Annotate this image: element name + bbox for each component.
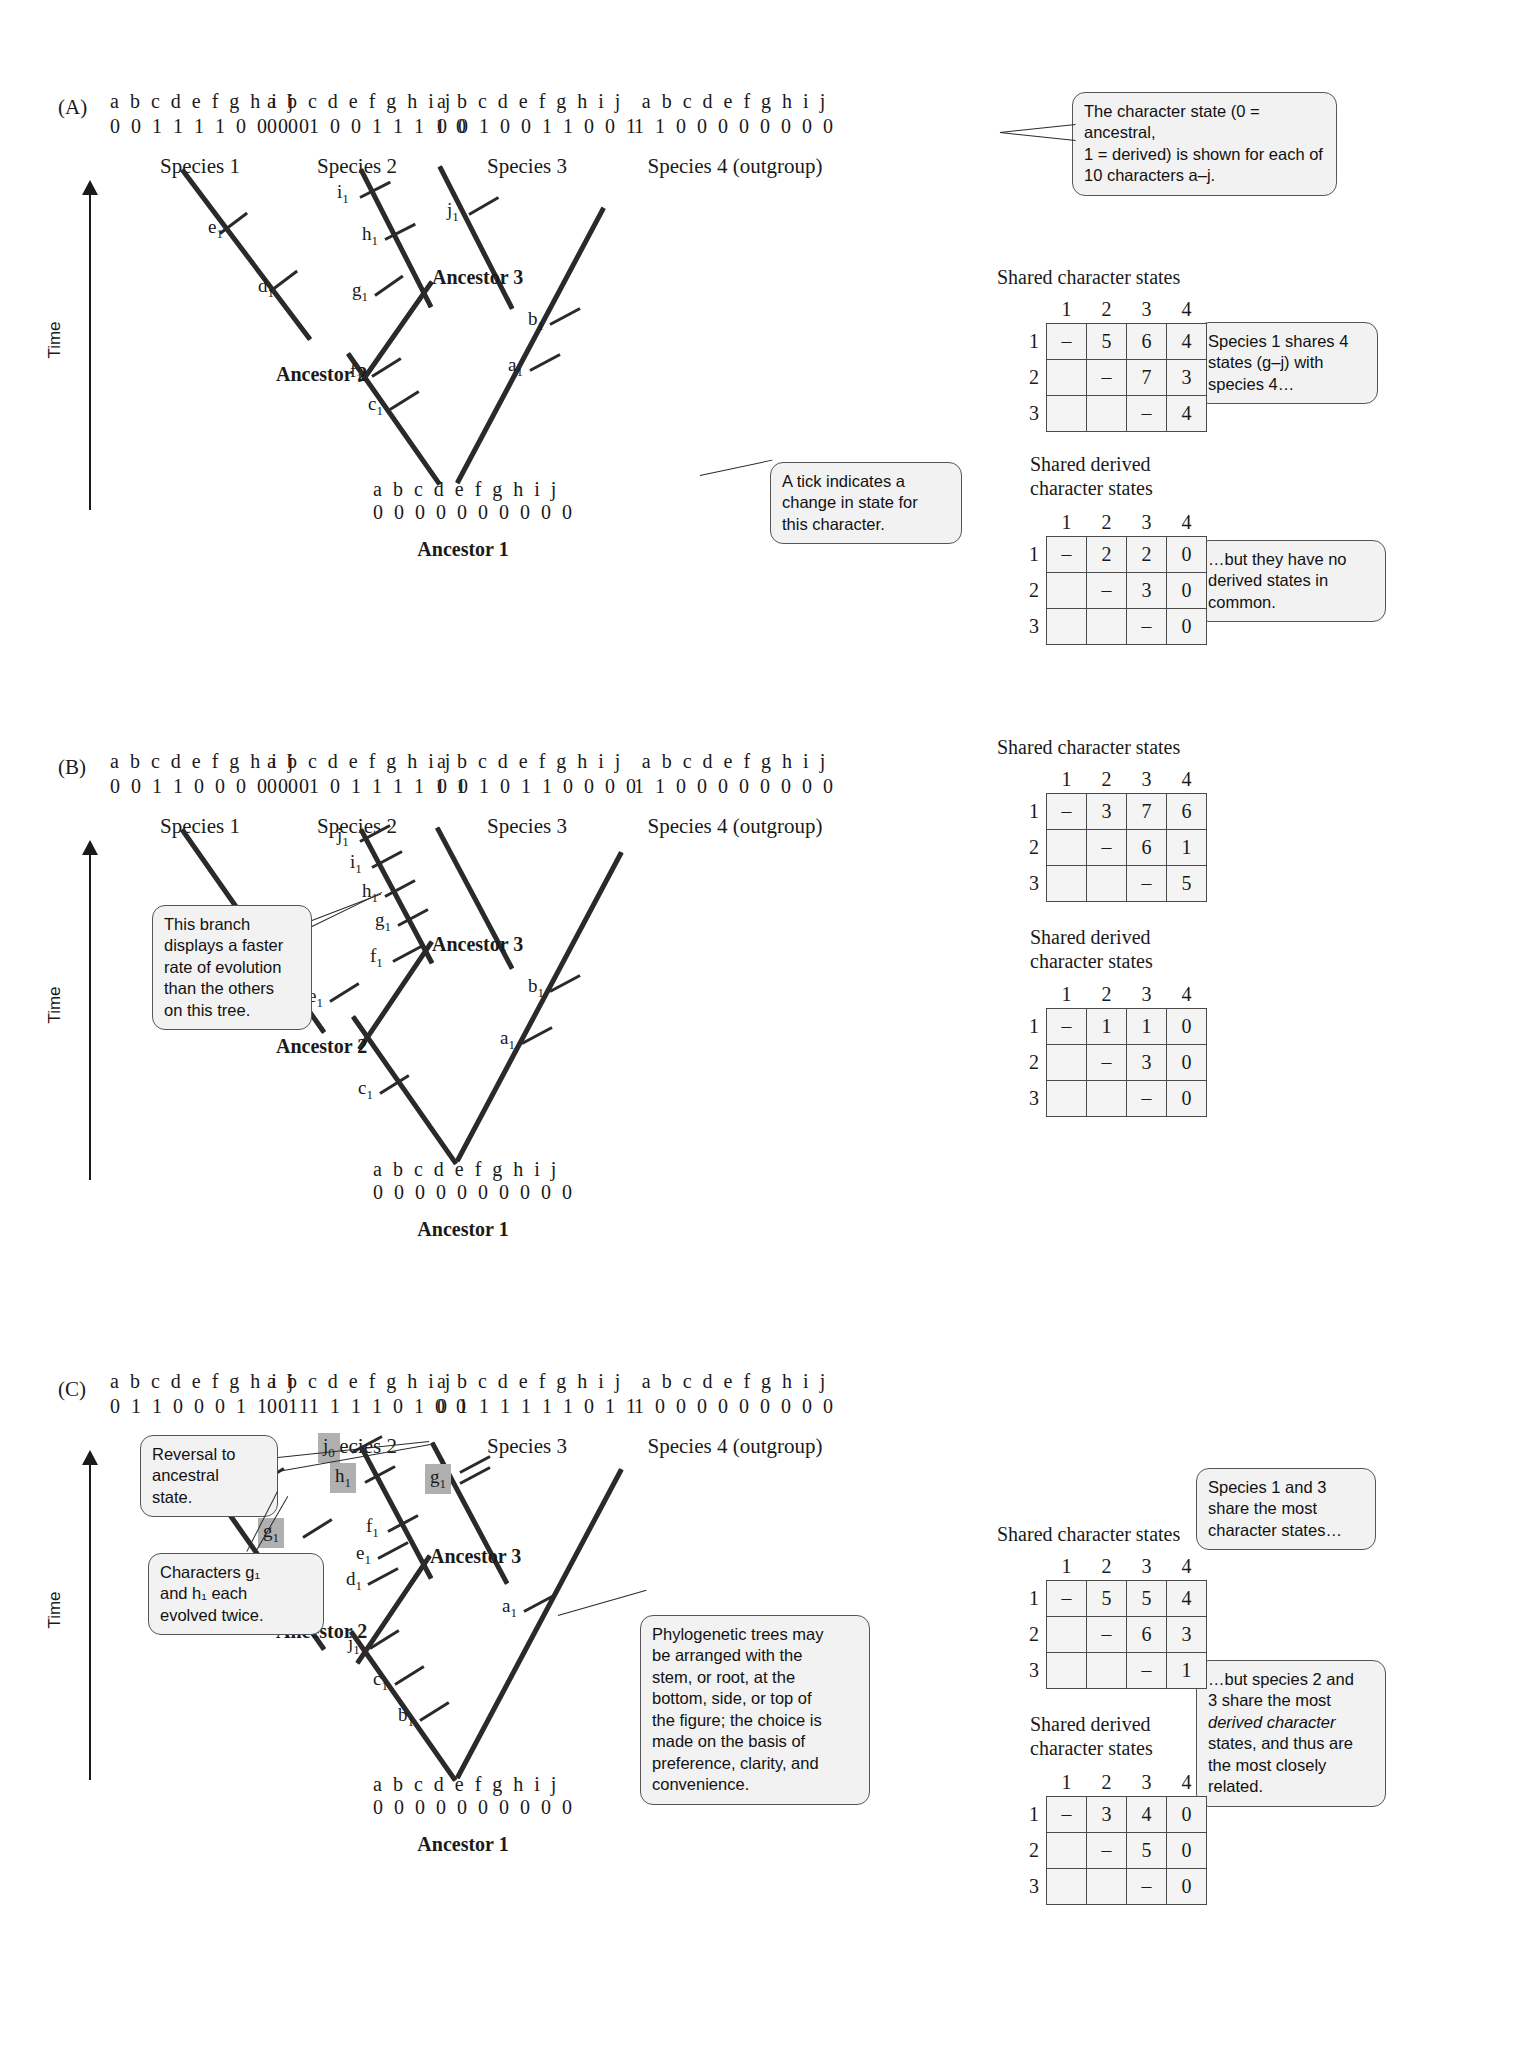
character-states: 1 0 0 0 0 0 0 0 0 0 bbox=[620, 1395, 850, 1418]
character-states: 0 0 0 0 0 0 0 0 0 0 bbox=[373, 1181, 553, 1204]
cell: – bbox=[1127, 866, 1167, 902]
tick-mark bbox=[419, 1701, 449, 1722]
time-axis-line bbox=[89, 1464, 91, 1780]
cell: 6 bbox=[1127, 324, 1167, 360]
cell bbox=[1047, 1653, 1087, 1689]
root-block-c: a b c d e f g h i j 0 0 0 0 0 0 0 0 0 0 … bbox=[373, 1773, 553, 1856]
character-letters: a b c d e f g h i j bbox=[437, 750, 617, 773]
table-title-shared-derived-b: Shared derived character states bbox=[1030, 925, 1153, 974]
corner-cell bbox=[1010, 1768, 1047, 1797]
character-letters: a b c d e f g h i j bbox=[373, 1773, 553, 1796]
tick-mark bbox=[374, 275, 404, 297]
tick-label-h1-sp2: h1 bbox=[330, 1463, 356, 1493]
cell bbox=[1047, 830, 1087, 866]
tick-mark bbox=[529, 353, 560, 372]
tick-label-c1: c1 bbox=[373, 1668, 388, 1694]
callout-leader-line bbox=[700, 460, 773, 477]
character-states: 1 1 0 0 0 0 0 0 0 0 bbox=[620, 115, 850, 138]
species-name: Species 4 (outgroup) bbox=[620, 814, 850, 839]
tick-mark bbox=[377, 1541, 408, 1560]
character-states: 0 0 0 0 0 0 0 0 0 0 bbox=[373, 1796, 553, 1819]
matrix-shared-states-a: 1 2 3 4 1 – 5 6 4 2 – 7 3 3 bbox=[1010, 295, 1207, 432]
callout-tick-note: A tick indicates a change in state for t… bbox=[770, 462, 962, 544]
species-block-3: a b c d e f g h i j 0 0 1 0 0 1 1 0 0 1 … bbox=[437, 90, 617, 179]
row-header: 2 bbox=[1010, 360, 1047, 396]
tick-mark bbox=[329, 982, 359, 1003]
tick-label-a1: a1 bbox=[508, 354, 523, 380]
character-letters: a b c d e f g h i j bbox=[267, 750, 447, 773]
character-states: 0 0 1 0 1 1 1 1 1 1 bbox=[267, 775, 447, 798]
cell: 4 bbox=[1127, 1797, 1167, 1833]
col-header: 4 bbox=[1167, 1768, 1207, 1797]
cell: – bbox=[1087, 1833, 1127, 1869]
character-states: 0 0 1 0 1 1 0 0 0 0 bbox=[437, 775, 617, 798]
character-letters: a b c d e f g h i j bbox=[437, 1370, 617, 1393]
cell: 1 bbox=[1127, 1009, 1167, 1045]
tick-label-j1: j1 bbox=[447, 199, 459, 225]
tick-label-c1: c1 bbox=[368, 393, 383, 419]
tick-label-a1: a1 bbox=[500, 1027, 515, 1053]
tick-mark bbox=[302, 1518, 332, 1539]
cell: 5 bbox=[1127, 1833, 1167, 1869]
time-axis-line bbox=[89, 194, 91, 510]
cell: 0 bbox=[1167, 537, 1207, 573]
callout-arrangement-note: Phylogenetic trees may be arranged with … bbox=[640, 1615, 870, 1805]
cell: 0 bbox=[1167, 609, 1207, 645]
row-header: 1 bbox=[1010, 1581, 1047, 1617]
cell: 4 bbox=[1167, 324, 1207, 360]
cell: 3 bbox=[1167, 360, 1207, 396]
time-arrow-icon bbox=[82, 180, 98, 195]
character-letters: a b c d e f g h i j bbox=[110, 750, 290, 773]
cell bbox=[1047, 1081, 1087, 1117]
tick-label-i1: i1 bbox=[350, 851, 362, 877]
cell bbox=[1087, 1653, 1127, 1689]
row-header: 1 bbox=[1010, 324, 1047, 360]
tick-label-f1: f1 bbox=[370, 945, 383, 971]
cell: – bbox=[1047, 794, 1087, 830]
cell bbox=[1047, 609, 1087, 645]
panel-b: (B) a b c d e f g h i j 0 0 1 1 0 0 0 0 … bbox=[0, 660, 1515, 1350]
cell: – bbox=[1047, 1797, 1087, 1833]
cell bbox=[1047, 360, 1087, 396]
tick-label-g1-sp3: g1 bbox=[425, 1464, 451, 1494]
tick-label-h1: h1 bbox=[362, 880, 378, 906]
table-title-shared-derived-c: Shared derived character states bbox=[1030, 1712, 1153, 1761]
tick-label-e1: e1 bbox=[356, 1542, 371, 1568]
col-header: 4 bbox=[1167, 295, 1207, 324]
matrix-shared-derived-b: 1 2 3 4 1 – 1 1 0 2 – 3 0 3 – 0 bbox=[1010, 980, 1207, 1117]
col-header: 1 bbox=[1047, 295, 1087, 324]
cell: – bbox=[1127, 1081, 1167, 1117]
cell: – bbox=[1087, 360, 1127, 396]
cell: – bbox=[1047, 537, 1087, 573]
branch-ancestor3 bbox=[361, 280, 434, 381]
col-header: 2 bbox=[1087, 295, 1127, 324]
cell: – bbox=[1047, 324, 1087, 360]
cell: 7 bbox=[1127, 794, 1167, 830]
col-header: 1 bbox=[1047, 980, 1087, 1009]
table-row: 3 – 4 bbox=[1010, 396, 1207, 432]
cell bbox=[1087, 1869, 1127, 1905]
row-header: 2 bbox=[1010, 573, 1047, 609]
cell: 6 bbox=[1127, 1617, 1167, 1653]
species-name: Species 1 bbox=[110, 154, 290, 179]
col-header: 3 bbox=[1127, 765, 1167, 794]
row-header: 2 bbox=[1010, 1617, 1047, 1653]
tick-label-d1: d1 bbox=[258, 275, 274, 301]
matrix-shared-states-c: 1 2 3 4 1 – 5 5 4 2 – 6 3 3 – 1 bbox=[1010, 1552, 1207, 1689]
row-header: 1 bbox=[1010, 1009, 1047, 1045]
matrix-shared-derived-a: 1 2 3 4 1 – 2 2 0 2 – 3 0 3 bbox=[1010, 508, 1207, 645]
table-row: 2 – 5 0 bbox=[1010, 1833, 1207, 1869]
col-header: 3 bbox=[1127, 508, 1167, 537]
species-block-3: a b c d e f g h i j 0 0 1 0 1 1 0 0 0 0 … bbox=[437, 750, 617, 839]
table-row: 3 – 0 bbox=[1010, 609, 1207, 645]
root-block-b: a b c d e f g h i j 0 0 0 0 0 0 0 0 0 0 … bbox=[373, 1158, 553, 1241]
cell: – bbox=[1087, 1045, 1127, 1081]
cell: 3 bbox=[1127, 573, 1167, 609]
cell: – bbox=[1127, 1653, 1167, 1689]
table-row: 3 – 1 bbox=[1010, 1653, 1207, 1689]
row-header: 3 bbox=[1010, 1081, 1047, 1117]
species-block-2: a b c d e f g h i j 0 0 1 0 0 1 1 1 1 0 … bbox=[267, 90, 447, 179]
row-header: 3 bbox=[1010, 396, 1047, 432]
tick-mark bbox=[549, 307, 580, 326]
cell: 5 bbox=[1127, 1581, 1167, 1617]
